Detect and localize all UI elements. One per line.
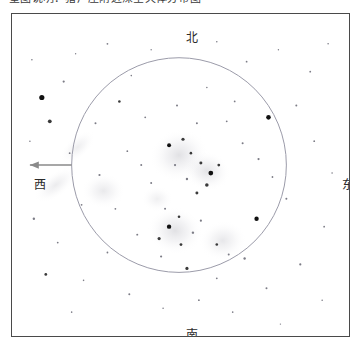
star-point [181,138,184,141]
star-point [323,226,325,228]
star-point [69,152,71,154]
star-point [266,115,271,120]
star-point [174,164,176,166]
star-point [167,224,171,228]
star-point [217,164,220,167]
star-point [331,172,333,174]
star-point [192,231,194,233]
star-point [33,218,35,220]
star-point [128,293,130,295]
star-point [180,243,183,246]
star-point [278,49,279,50]
star-point [196,122,198,124]
star-point [321,299,323,301]
west-arrow-head [30,161,39,168]
star-point [232,311,234,313]
star-point [81,204,83,206]
star-point [75,53,76,54]
star-point [44,273,47,276]
star-point [195,191,198,194]
star-point [254,217,258,221]
star-point [246,61,248,63]
star-point [83,280,85,282]
star-point [57,242,59,244]
nebula-blob-3 [196,217,250,264]
star-point [205,183,209,187]
nebula-layer [28,121,250,265]
star-point [63,80,65,82]
direction-label-south: 南 [186,329,198,337]
star-point [160,255,162,257]
star-point [162,307,164,309]
star-point [107,252,109,254]
star-point [48,119,52,123]
star-point [206,87,208,89]
nebula-blob-4 [82,173,126,209]
star-chart-frame: 北 南 西 东 [11,13,350,337]
sky-map-canvas [12,14,349,336]
star-point [126,150,128,152]
star-point [327,43,329,45]
star-point [114,208,116,210]
star-point [228,254,230,256]
star-point [257,158,259,160]
star-point [140,164,142,166]
star-point [215,243,218,246]
star-point [178,215,181,218]
star-point [199,162,202,165]
star-point [226,120,228,122]
star-point [216,277,218,279]
star-point [95,122,97,124]
star-point [295,104,297,106]
star-point [200,220,202,222]
star-point [29,140,31,142]
star-point [118,100,121,103]
star-point [150,49,151,50]
star-point [242,142,244,144]
direction-label-east: 东 [342,179,350,191]
star-point [272,176,274,178]
star-point [98,174,100,176]
nebula-blob-7 [141,186,173,212]
star-point [107,43,109,45]
star-point [164,208,166,210]
direction-label-west: 西 [34,179,46,191]
star-point [280,323,281,324]
star-point [130,75,132,77]
star-point [309,71,311,73]
star-point [39,95,44,100]
star-point [176,104,178,106]
star-point [299,263,301,265]
caption-strip: 星图说明：猎户座附近深空天体分布图 [0,0,362,11]
star-point [71,311,73,313]
star-point [234,101,236,103]
star-point [190,152,193,155]
star-point [216,41,218,43]
star-point [243,257,245,259]
star-point [144,116,146,118]
direction-label-north: 北 [186,32,198,44]
star-layer [29,41,333,325]
caption-text: 星图说明：猎户座附近深空天体分布图 [9,0,201,5]
star-point [198,299,200,301]
star-point [158,237,161,240]
star-point [136,234,138,236]
star-point [285,198,287,200]
star-point [31,59,33,61]
star-point [208,171,213,176]
star-point [265,287,267,289]
star-point [185,267,188,270]
star-point [313,140,315,142]
star-point [150,182,152,184]
star-point [167,143,171,147]
star-point [186,178,188,180]
